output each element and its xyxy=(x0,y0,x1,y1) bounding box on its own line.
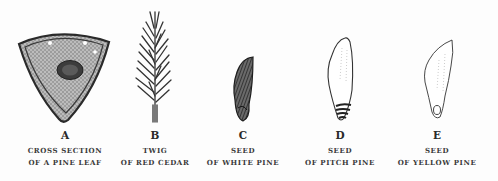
caption-line-2: OF YELLOW PINE xyxy=(377,158,497,167)
figure-letter: E xyxy=(377,129,497,141)
yellow-pine-seed-icon xyxy=(377,0,497,130)
caption-line-1: SEED xyxy=(377,146,497,155)
figure-e: E SEED OF YELLOW PINE xyxy=(377,0,497,181)
